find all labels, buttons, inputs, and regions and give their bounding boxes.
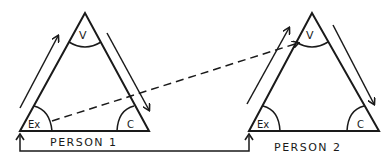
person1-ex-label: Ex [28,119,40,130]
person2-c-label: C [357,119,364,130]
person2-label: PERSON 2 [274,141,342,154]
person2-down-arrow [333,25,374,104]
person1-v-label: V [79,29,87,42]
person2-v-label: V [306,29,314,42]
person2-ex-label: Ex [257,119,269,130]
two-person-triangle-diagram: V Ex C PERSON 1 V Ex C PERSON 2 [0,0,389,167]
person1-c-label: C [127,119,134,130]
person1-label: PERSON 1 [50,136,118,149]
person1-down-arrow [107,33,149,110]
person1-v-arc [69,42,101,47]
person2-v-arc [296,42,328,47]
